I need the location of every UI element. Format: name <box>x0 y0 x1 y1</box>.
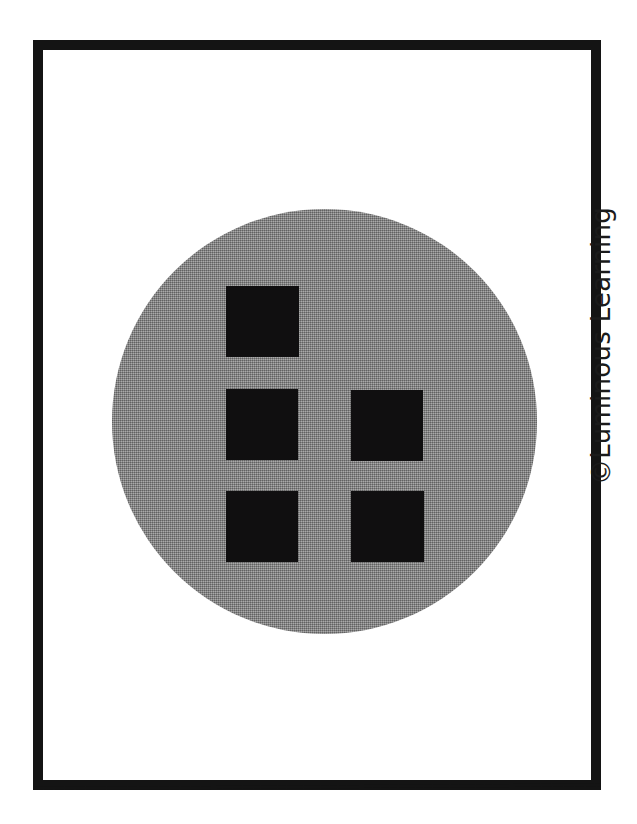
card-frame-border: ©Luminous Learning <box>33 40 601 790</box>
gray-circle-shape <box>112 209 537 634</box>
copyright-text: ©Luminous Learning <box>584 145 618 485</box>
worksheet-page: ©Luminous Learning <box>0 0 637 824</box>
copyright-notice: ©Luminous Learning <box>584 145 618 485</box>
